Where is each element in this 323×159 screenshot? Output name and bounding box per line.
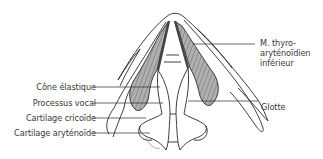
label-line: inférieur [260,58,310,68]
label-text: Cartilage cricoïde [26,113,96,123]
label-text: Cartilage aryténoïde [14,128,96,138]
label-text: Processus vocal [33,98,96,108]
label-line: aryténoïdien [260,48,310,58]
label-m-thyro-arytenoidien: M. thyro- aryténoïdien inférieur [260,38,310,68]
larynx-diagram: Cône élastique Processus vocal Cartilage… [0,0,323,159]
label-text: Cône élastique [36,82,96,92]
label-text: Glotte [261,102,286,112]
label-line: M. thyro- [260,38,310,48]
label-glotte: Glotte [261,96,286,114]
